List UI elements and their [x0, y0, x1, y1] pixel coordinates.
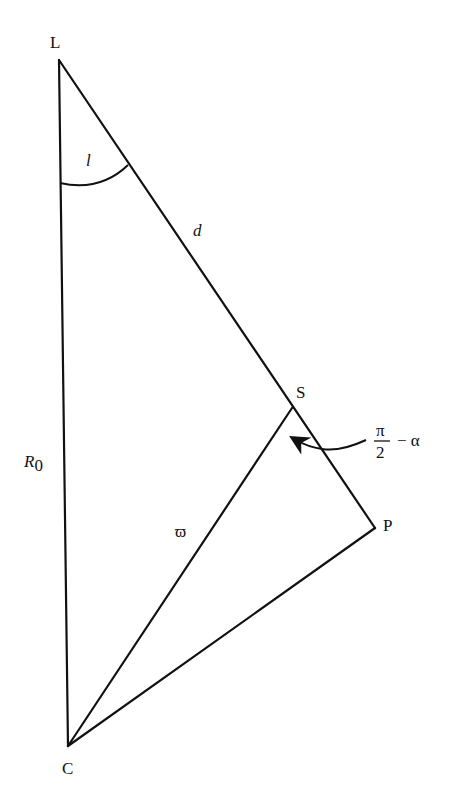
side-label-varpi: ϖ — [175, 522, 186, 541]
minus-alpha: − α — [397, 431, 420, 450]
vertex-label-S: S — [296, 383, 305, 402]
diagram-svg: L S P C l d R0 ϖ π 2 − α — [0, 0, 451, 794]
angle-l-arc — [60, 165, 128, 185]
angle-label-pi-over-2-minus-alpha: π 2 − α — [374, 421, 420, 462]
triangle-diagram: L S P C l d R0 ϖ π 2 − α — [0, 0, 451, 794]
vertex-label-L: L — [50, 33, 60, 52]
segment-LC — [59, 60, 68, 746]
segment-LP — [59, 60, 375, 528]
fraction-numerator: π — [376, 421, 385, 440]
vertex-label-P: P — [383, 516, 392, 535]
side-label-R: R — [23, 452, 35, 471]
segment-SC — [68, 408, 292, 746]
angle-label-l: l — [86, 151, 91, 170]
side-label-d: d — [193, 221, 202, 240]
curved-arrow-icon — [296, 440, 366, 450]
side-label-R0: R0 — [23, 452, 43, 475]
segment-PC — [68, 528, 375, 746]
side-label-R-subscript: 0 — [34, 456, 43, 475]
vertex-label-C: C — [62, 759, 73, 778]
fraction-denominator: 2 — [376, 443, 385, 462]
